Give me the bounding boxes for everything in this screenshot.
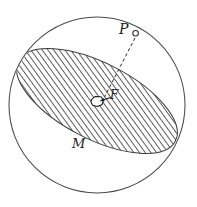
label-point-p: P — [119, 22, 128, 36]
label-disk-m: M — [72, 137, 85, 150]
small-region-f — [91, 96, 103, 106]
diagram-svg — [0, 0, 197, 207]
label-region-f: F — [110, 89, 118, 101]
point-p-marker — [133, 30, 139, 36]
figure-canvas: P F M — [0, 0, 197, 207]
